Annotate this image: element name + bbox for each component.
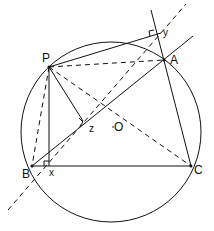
perp-py: [49, 33, 161, 67]
geometry-figure: [0, 0, 214, 231]
side-ca-extended: [151, 10, 191, 166]
right-angle-x: [44, 161, 49, 166]
label-b: B: [22, 168, 30, 180]
label-x: x: [49, 168, 54, 178]
label-p: P: [42, 52, 50, 64]
dash-pa: [49, 60, 164, 67]
label-c: C: [194, 164, 203, 176]
label-a: A: [170, 54, 178, 66]
label-y: y: [163, 28, 168, 38]
dash-pb: [32, 67, 49, 166]
label-o: O: [114, 121, 123, 133]
label-z: z: [89, 124, 94, 134]
perp-pz: [49, 67, 83, 121]
side-ab-extended: [32, 36, 193, 166]
circumcircle: [21, 42, 201, 222]
simson-line: [8, 4, 186, 210]
